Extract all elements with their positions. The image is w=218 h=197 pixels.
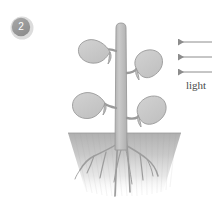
leaf-lower-left — [72, 93, 116, 119]
light-arrows — [178, 42, 212, 72]
leaf-upper-right — [127, 50, 163, 80]
light-label: light — [186, 79, 206, 91]
stem-shape — [115, 23, 127, 150]
leaf-blade-lower-right — [137, 96, 166, 127]
leaf-blade-upper-right — [135, 50, 163, 80]
step-badge: 2 — [11, 17, 34, 40]
leaf-upper-left — [78, 40, 116, 64]
figure-container: 2 — [0, 0, 218, 197]
leaf-blade-lower-left — [72, 93, 106, 119]
main-stem — [115, 23, 127, 150]
leaf-blade-upper-left — [78, 40, 111, 64]
plant-phototropism-figure: 2 — [0, 0, 218, 197]
leaf-lower-right — [127, 96, 166, 127]
badge-number-label: 2 — [18, 21, 24, 32]
